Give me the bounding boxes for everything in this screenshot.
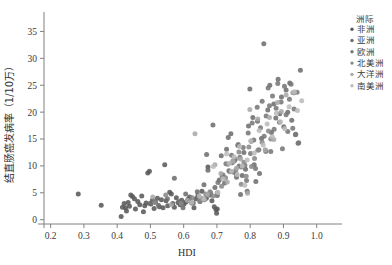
data-point [272,127,277,132]
x-axis-tick-label: 0.7 [211,231,223,241]
data-point [202,197,207,202]
data-point [210,123,215,128]
data-point [276,77,281,82]
legend-marker-4[interactable] [350,73,353,76]
data-point [252,156,257,161]
data-point [224,147,229,152]
legend-label-4[interactable]: 大洋洲 [357,69,384,79]
legend-marker-2[interactable] [350,50,353,53]
data-point [169,191,174,196]
data-point [190,195,195,200]
data-point [275,81,280,86]
data-point [299,98,304,103]
data-point [133,206,138,211]
data-point [185,198,190,203]
data-point [183,191,188,196]
data-point [163,192,168,197]
data-point [99,203,104,208]
data-point [250,115,255,120]
data-point [238,192,243,197]
data-point [242,183,247,188]
data-point [150,195,155,200]
data-point [255,117,260,122]
data-point [284,112,289,117]
y-axis-tick-label: 35 [28,27,38,37]
data-point [211,194,216,199]
data-point [205,168,210,173]
data-point [195,189,200,194]
legend-label-5[interactable]: 南美洲 [357,81,384,91]
data-point [296,140,301,145]
data-point [255,105,260,110]
data-point [295,108,300,113]
data-point [248,138,253,143]
data-point [247,87,252,92]
data-point [152,206,157,211]
legend-marker-5[interactable] [350,84,353,87]
data-point [232,154,237,159]
y-axis-tick-label: 25 [28,81,38,91]
data-point [240,163,245,168]
data-point [266,128,271,133]
data-point [212,185,217,190]
data-point [204,152,209,157]
data-point [215,190,220,195]
data-point [247,107,252,112]
data-point [124,209,129,214]
data-point [192,131,197,136]
data-point [262,134,267,139]
data-point [275,100,280,105]
data-point [181,205,186,210]
x-axis-tick-label: 0.8 [244,231,256,241]
data-point [189,200,194,205]
data-point [147,201,152,206]
data-point [162,162,167,167]
scatter-chart: 0.20.30.40.50.60.70.80.91.00510152025303… [0,0,392,265]
data-point [179,201,184,206]
data-point [215,206,220,211]
data-point [139,194,144,199]
y-axis-tick-label: 10 [28,161,38,171]
data-point [246,145,251,150]
data-point [234,166,239,171]
y-axis-tick-label: 30 [28,54,38,64]
data-point [250,120,255,125]
legend-marker-3[interactable] [350,61,353,64]
data-point [236,149,241,154]
legend-marker-0[interactable] [350,28,353,31]
data-point [289,82,294,87]
x-axis-tick-label: 0.4 [111,231,123,241]
chart-canvas: 0.20.30.40.50.60.70.80.91.00510152025303… [0,0,392,265]
data-point [265,107,270,112]
legend-label-3[interactable]: 北美洲 [357,58,384,68]
x-axis-tick-label: 0.3 [78,231,90,241]
x-axis-tick-label: 1.0 [311,231,323,241]
data-point [252,151,257,156]
data-point [228,131,233,136]
data-point [257,128,262,133]
data-point [224,152,229,157]
data-point [197,194,202,199]
data-point [267,115,272,120]
data-point [293,132,298,137]
data-point [249,164,254,169]
data-point [218,171,223,176]
data-point [265,121,270,126]
data-point [219,153,224,158]
data-point [267,103,272,108]
data-point [261,41,266,46]
legend-label-2[interactable]: 欧洲 [357,47,375,57]
data-point [280,146,285,151]
data-point [76,191,81,196]
x-axis-tick-label: 0.5 [144,231,156,241]
data-point [147,169,152,174]
data-point [270,134,275,139]
data-point [235,172,240,177]
data-point [211,164,216,169]
legend-label-0[interactable]: 非洲 [357,24,375,34]
legend-title: 洲际 [356,14,374,24]
legend-marker-1[interactable] [350,39,353,42]
legend-label-1[interactable]: 亚洲 [357,35,375,45]
data-point [220,176,225,181]
data-point [241,150,246,155]
